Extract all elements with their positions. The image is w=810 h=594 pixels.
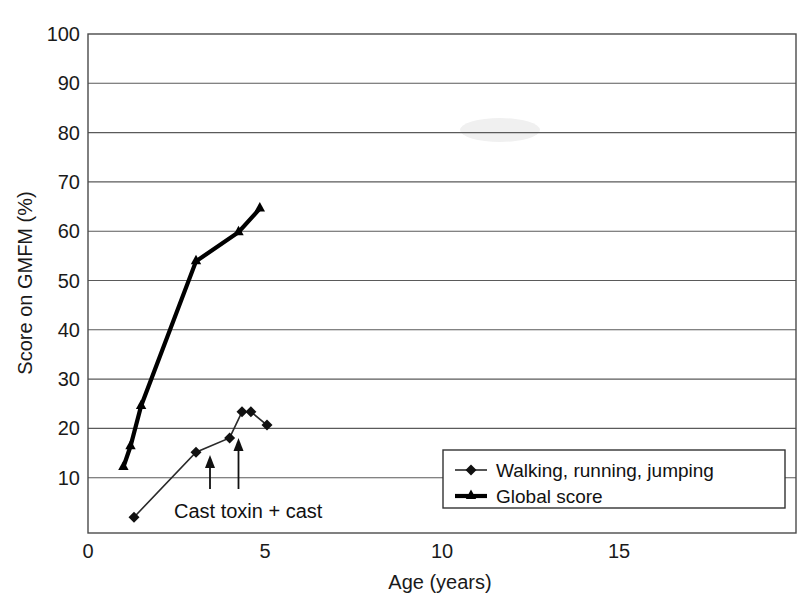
y-tick-70: 70: [58, 171, 80, 193]
legend-label-walking: Walking, running, jumping: [496, 460, 714, 481]
x-axis-title: Age (years): [388, 571, 491, 593]
scan-artifact: [460, 118, 540, 142]
x-tick-5: 5: [259, 540, 270, 562]
y-tick-40: 40: [58, 319, 80, 341]
gmfm-score-chart: 100 90 80 70 60 50 40 30 20 10 0 5 10 15…: [0, 0, 810, 594]
annotation-cast-toxin: Cast toxin + cast: [174, 500, 323, 522]
y-axis-title: Score on GMFM (%): [14, 191, 36, 374]
chart-legend: Walking, running, jumping Global score: [443, 450, 785, 508]
x-tick-15: 15: [608, 540, 630, 562]
y-tick-60: 60: [58, 220, 80, 242]
x-tick-10: 10: [431, 540, 453, 562]
y-tick-10: 10: [58, 467, 80, 489]
y-tick-50: 50: [58, 270, 80, 292]
y-tick-20: 20: [58, 417, 80, 439]
y-tick-90: 90: [58, 72, 80, 94]
chart-page: 100 90 80 70 60 50 40 30 20 10 0 5 10 15…: [0, 0, 810, 594]
x-tick-0: 0: [82, 540, 93, 562]
y-tick-100: 100: [47, 23, 80, 45]
legend-label-global: Global score: [496, 486, 603, 507]
y-tick-80: 80: [58, 122, 80, 144]
y-tick-30: 30: [58, 368, 80, 390]
